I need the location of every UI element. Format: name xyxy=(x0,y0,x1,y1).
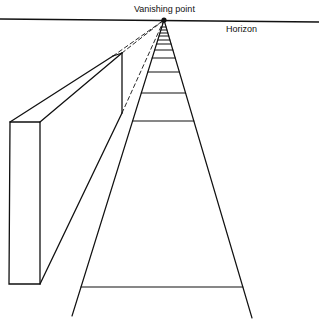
construction-line-bottom xyxy=(122,20,164,113)
construction-line-inner xyxy=(122,20,164,53)
wall-front-face xyxy=(9,122,40,284)
vanishing-point-marker xyxy=(161,17,166,22)
wall-box xyxy=(9,53,122,284)
wall-bottom-side-edge xyxy=(40,113,122,284)
road-left-edge xyxy=(72,20,164,316)
road-right-edge xyxy=(164,20,252,318)
vanishing-point-label: Vanishing point xyxy=(134,4,195,14)
perspective-diagram xyxy=(0,0,319,323)
vanishing-point-dot xyxy=(161,17,166,22)
horizon-label: Horizon xyxy=(226,24,257,34)
horizon-stroke xyxy=(0,19,319,22)
wall-top-inner-edge xyxy=(40,53,122,122)
wall-top-outer-edge xyxy=(10,56,113,122)
horizon-line xyxy=(0,19,319,22)
road-stripes xyxy=(81,27,243,287)
construction-lines xyxy=(113,20,164,113)
